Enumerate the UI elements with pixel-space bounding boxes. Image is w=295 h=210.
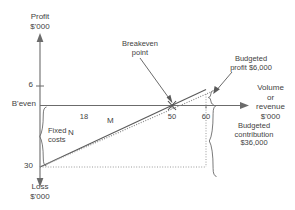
x-tick-label-18: 18 (74, 113, 94, 122)
y-axis-negative-title-line2: $'000 (16, 192, 64, 202)
breakeven-point-label: Breakeven point (105, 40, 175, 57)
line-label-m: M (107, 117, 114, 126)
y-tick-label-6: 6 (14, 81, 33, 90)
budgeted-profit-label: Budgeted profit $6,000 (212, 55, 290, 72)
y-axis-title-line1: Profit (16, 12, 64, 22)
x-axis-title-line4: $'000 (248, 112, 293, 122)
y-axis (37, 33, 44, 187)
x-axis-title-line1: Volume (248, 83, 293, 93)
y-tick-label-30: 30 (14, 162, 33, 171)
y-tick-label-breakeven: B'even (0, 100, 36, 109)
y-axis-title-line2: $'000 (16, 22, 64, 32)
fixed-costs-label: Fixed costs (48, 127, 76, 144)
x-axis-title-line3: revenue (248, 102, 293, 112)
breakeven-callout-leader (140, 58, 171, 101)
breakeven-chart: Profit $'000 Loss $'000 Volume or revenu… (0, 0, 295, 210)
fixed-costs-label-line2: costs (48, 136, 76, 145)
y-axis-title: Profit $'000 (16, 12, 64, 31)
x-tick-label-50: 50 (162, 113, 182, 122)
budgeted-contribution-label: Budgeted contribution $36,000 (218, 122, 290, 148)
budgeted-contribution-label-line3: $36,000 (218, 139, 290, 148)
budgeted-profit-brace (208, 91, 213, 105)
x-axis-title: Volume or revenue $'000 (248, 83, 293, 121)
breakeven-point-label-line2: point (105, 49, 175, 58)
x-axis (40, 102, 249, 109)
x-axis-title-line2: or (248, 93, 293, 103)
y-axis-up-arrowhead (37, 33, 44, 42)
x-tick-label-60: 60 (196, 113, 216, 122)
y-axis-negative-title-line1: Loss (16, 182, 64, 192)
budgeted-profit-label-line2: profit $6,000 (212, 64, 290, 73)
fixed-costs-brace (40, 107, 47, 166)
y-axis-negative-title: Loss $'000 (16, 182, 64, 201)
